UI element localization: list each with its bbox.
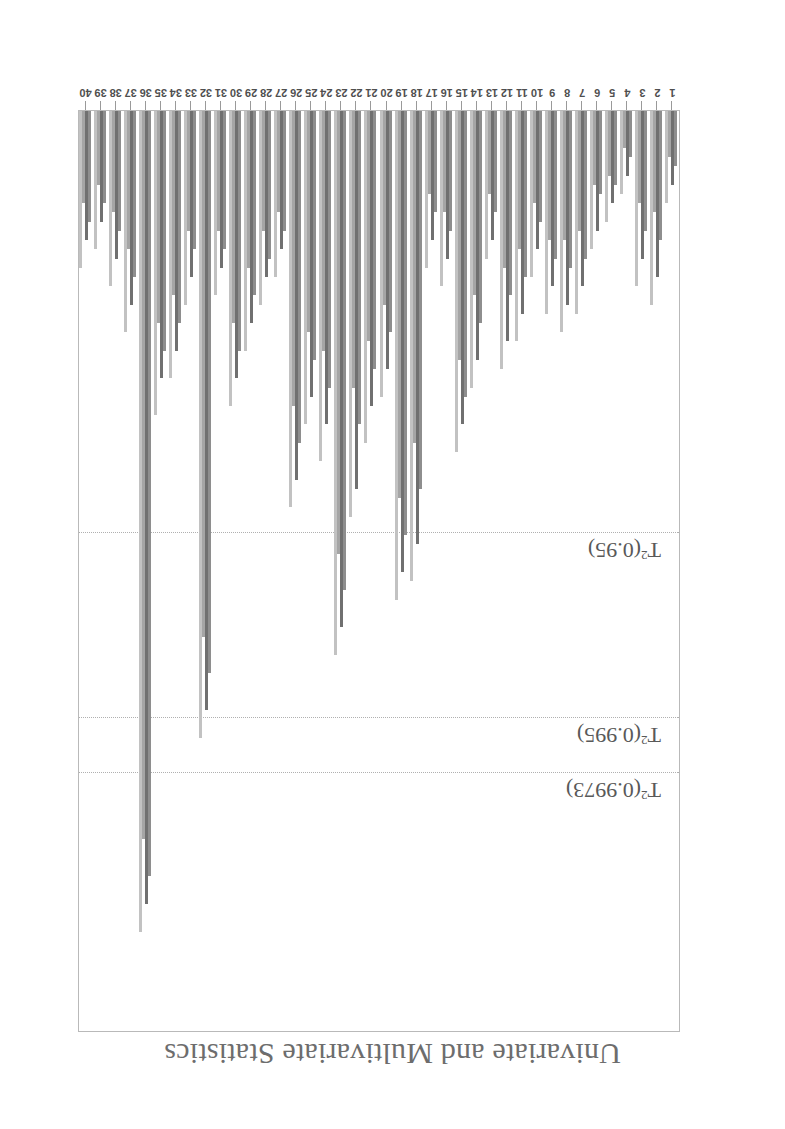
bar-group: [530, 111, 542, 277]
bar-bar-3: [578, 111, 581, 231]
bar-bar-4: [94, 111, 97, 249]
bar-bar-2: [340, 111, 343, 627]
axis-tick-label: 27: [275, 87, 287, 99]
bar-bar-4: [455, 111, 458, 452]
bar-bar-4: [485, 111, 488, 259]
axis-tick: [581, 101, 582, 110]
bar-bar-4: [334, 111, 337, 655]
control-limit-line-T2-0.995: [79, 717, 679, 718]
axis-tick: [491, 101, 492, 110]
bar-bar-4: [319, 111, 322, 461]
bar-bar-1: [343, 111, 346, 590]
axis-tick-label: 28: [260, 87, 272, 99]
axis-tick-label: 23: [335, 87, 347, 99]
bar-bar-2: [325, 111, 328, 424]
axis-tick-label: 12: [501, 87, 513, 99]
bar-bar-1: [389, 111, 392, 332]
control-limit-line-T2-0.9973: [79, 772, 679, 773]
bar-bar-4: [425, 111, 428, 268]
bar-bar-2: [506, 111, 509, 342]
bar-bar-1: [479, 111, 482, 323]
axis-tick-label: 20: [380, 87, 392, 99]
axis-tick-label: 30: [230, 87, 242, 99]
bar-bar-2: [401, 111, 404, 572]
bar-bar-2: [581, 111, 584, 286]
axis-tick-label: 5: [609, 87, 615, 99]
axis-tick-label: 18: [411, 87, 423, 99]
bar-bar-3: [473, 111, 476, 295]
bar-bar-3: [428, 111, 431, 194]
bar-bar-1: [629, 111, 632, 157]
bar-group: [364, 111, 376, 443]
bar-group: [560, 111, 572, 332]
bar-bar-4: [545, 111, 548, 314]
bar-bar-1: [103, 111, 106, 203]
bar-bar-4: [575, 111, 578, 314]
bar-bar-3: [638, 111, 641, 203]
bar-bar-1: [419, 111, 422, 489]
bar-bar-3: [533, 111, 536, 203]
bar-bar-1: [298, 111, 301, 443]
bar-bar-2: [431, 111, 434, 240]
axis-tick-label: 2: [654, 87, 660, 99]
bar-bar-1: [554, 111, 557, 259]
bar-group: [515, 111, 527, 342]
axis-tick-label: 3: [639, 87, 645, 99]
axis-tick-label: 14: [471, 87, 483, 99]
bar-bar-3: [593, 111, 596, 185]
axis-tick: [521, 101, 522, 110]
bar-bar-4: [395, 111, 398, 600]
bar-bar-1: [569, 111, 572, 268]
bar-bar-2: [100, 111, 103, 222]
axis-tick-label: 31: [215, 87, 227, 99]
bar-bar-1: [373, 111, 376, 369]
bar-bar-1: [193, 111, 196, 249]
bar-bar-1: [644, 111, 647, 231]
bar-bar-3: [322, 111, 325, 351]
bar-bar-3: [352, 111, 355, 388]
bar-group: [214, 111, 226, 295]
axis-tick: [130, 101, 131, 110]
axis-tick: [656, 101, 657, 110]
axis-tick: [641, 101, 642, 110]
axis-tick-label: 34: [170, 87, 182, 99]
bar-bar-3: [97, 111, 100, 185]
bar-bar-4: [304, 111, 307, 424]
bar-bar-2: [130, 111, 133, 305]
axis-tick: [551, 101, 552, 110]
axis-tick-label: 11: [516, 87, 528, 99]
bar-bar-4: [79, 111, 82, 268]
bar-group: [334, 111, 346, 655]
bar-bar-1: [614, 111, 617, 185]
bar-bar-4: [440, 111, 443, 286]
axis-tick-label: 29: [245, 87, 257, 99]
axis-tick-label: 10: [531, 87, 543, 99]
bar-group: [545, 111, 557, 314]
bar-bar-3: [142, 111, 145, 839]
axis-tick-label: 40: [79, 87, 91, 99]
bar-bar-3: [127, 111, 130, 249]
axis-tick-label: 17: [426, 87, 438, 99]
bar-bar-3: [157, 111, 160, 323]
bar-group: [94, 111, 106, 249]
bar-bar-4: [244, 111, 247, 351]
bar-bar-1: [253, 111, 256, 295]
axis-tick-label: 21: [365, 87, 377, 99]
bar-group: [440, 111, 452, 286]
axis-tick: [265, 101, 266, 110]
bar-group: [124, 111, 136, 332]
bar-group: [500, 111, 512, 369]
axis-tick: [100, 101, 101, 110]
bar-bar-3: [82, 111, 85, 203]
bar-bar-3: [653, 111, 656, 212]
bar-bar-4: [139, 111, 142, 932]
axis-tick: [431, 101, 432, 110]
bar-group: [575, 111, 587, 314]
bar-group: [620, 111, 632, 194]
bar-bar-2: [295, 111, 298, 480]
bar-bar-3: [443, 111, 446, 212]
bar-bar-1: [208, 111, 211, 673]
bar-bar-2: [551, 111, 554, 286]
axis-tick: [446, 101, 447, 110]
bar-bar-2: [310, 111, 313, 397]
